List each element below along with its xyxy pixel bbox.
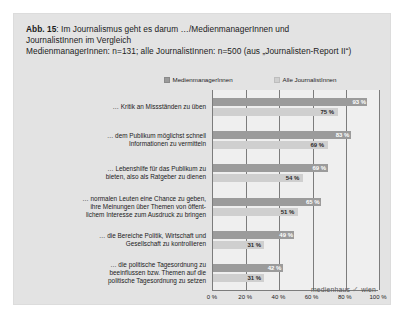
- bar-value-label: 31 %: [247, 242, 261, 248]
- x-tick-label: 40 %: [272, 294, 286, 300]
- category-label-line: Informationen zu vermitteln: [28, 140, 206, 148]
- category-label: … Lebenshilfe für das Publikum zubieten,…: [28, 165, 206, 181]
- gridline: [246, 90, 247, 290]
- x-tick-label: 0 %: [207, 294, 217, 300]
- legend-item-alle-journalistinnen[interactable]: Alle JournalistInnen: [274, 76, 337, 83]
- gridline: [346, 90, 347, 290]
- legend-item-medienmanagerinnen[interactable]: MedienmanagerInnen: [164, 76, 233, 83]
- bar-value-label: 65 %: [306, 199, 320, 205]
- category-label: … Kritik an Missständen zu üben: [28, 103, 206, 111]
- bar-value-label: 83 %: [336, 132, 350, 138]
- category-label-line: politische Tagesordnung zu setzen: [28, 277, 206, 285]
- category-label-line: … die politische Tagesordnung zu: [28, 261, 206, 269]
- figure-title-line-1: Abb. 15: Im Journalismus geht es darum ……: [26, 24, 382, 35]
- brand-logo: medienhaus ✓ wien: [311, 285, 376, 294]
- chart-legend: MedienmanagerInnen Alle JournalistInnen: [164, 76, 384, 88]
- category-label-line: … Kritik an Missständen zu üben: [28, 103, 206, 111]
- bar-value-label: 75 %: [321, 109, 335, 115]
- bar-medienmanagerinnen[interactable]: [213, 131, 351, 139]
- bar-medienmanagerinnen[interactable]: [213, 198, 321, 206]
- chart-plot: 93 %75 %83 %69 %69 %54 %65 %51 %49 %31 %…: [26, 90, 378, 290]
- x-tick-label: 20 %: [238, 294, 252, 300]
- category-label: … normalen Leuten eine Chance zu geben,i…: [28, 195, 206, 219]
- category-label-line: … Lebenshilfe für das Publikum zu: [28, 165, 206, 173]
- category-label-line: … dem Publikum möglichst schnell: [28, 132, 206, 140]
- figure-card: Abb. 15: Im Journalismus geht es darum ……: [14, 14, 390, 304]
- bar-value-label: 51 %: [281, 209, 295, 215]
- legend-label: Alle JournalistInnen: [283, 76, 337, 83]
- legend-swatch-icon: [164, 77, 170, 83]
- bar-medienmanagerinnen[interactable]: [213, 98, 367, 106]
- check-icon: ✓: [352, 285, 359, 294]
- bar-medienmanagerinnen[interactable]: [213, 164, 328, 172]
- legend-swatch-icon: [274, 77, 280, 83]
- logo-text-left: medienhaus: [311, 286, 350, 293]
- bar-alle-journalistinnen[interactable]: [213, 108, 338, 116]
- category-label-line: … normalen Leuten eine Chance zu geben,: [28, 195, 206, 203]
- figure-title-block: Abb. 15: Im Journalismus geht es darum ……: [26, 24, 382, 58]
- bar-value-label: 49 %: [279, 232, 293, 238]
- category-label-line: Gesellschaft zu kontrollieren: [28, 240, 206, 248]
- x-tick-label: 100 %: [369, 294, 386, 300]
- bar-value-label: 69 %: [311, 142, 325, 148]
- category-label: … dem Publikum möglichst schnellInformat…: [28, 132, 206, 148]
- bar-value-label: 93 %: [352, 99, 366, 105]
- logo-text-right: wien: [361, 286, 376, 293]
- bar-value-label: 42 %: [268, 265, 282, 271]
- bar-value-label: 54 %: [286, 175, 300, 181]
- bar-value-label: 31 %: [247, 275, 261, 281]
- category-label-line: … die Bereiche Politik, Wirtschaft und: [28, 232, 206, 240]
- gridline: [379, 90, 380, 290]
- x-tick-label: 80 %: [338, 294, 352, 300]
- legend-label: MedienmanagerInnen: [173, 76, 233, 83]
- figure-number: Abb. 15: [26, 24, 56, 34]
- category-label-line: bieten, also als Ratgeber zu dienen: [28, 173, 206, 181]
- plot-area: 93 %75 %83 %69 %69 %54 %65 %51 %49 %31 %…: [212, 90, 379, 290]
- category-label-line: lichem Interesse zum Ausdruck zu bringen: [28, 211, 206, 219]
- figure-title-rest: : Im Journalismus geht es darum …/Medien…: [56, 24, 289, 34]
- figure-subtitle: MedienmanagerInnen: n=131; alle Journali…: [26, 46, 382, 57]
- plot-inner: 93 %75 %83 %69 %69 %54 %65 %51 %49 %31 %…: [26, 90, 378, 290]
- category-label-line: ihre Meinungen über Themen von öffent-: [28, 203, 206, 211]
- gridline: [279, 90, 280, 290]
- category-label: … die Bereiche Politik, Wirtschaft undGe…: [28, 232, 206, 248]
- x-tick-label: 60 %: [305, 294, 319, 300]
- gridline: [313, 90, 314, 290]
- category-label: … die politische Tagesordnung zubeeinflu…: [28, 261, 206, 285]
- figure-title-line-2: JournalistInnen im Vergleich: [26, 35, 382, 46]
- category-label-line: beeinflussen bzw. Themen auf die: [28, 269, 206, 277]
- bar-value-label: 69 %: [313, 165, 327, 171]
